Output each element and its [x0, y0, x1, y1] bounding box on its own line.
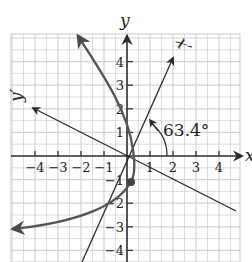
- y-axis-label: y: [119, 10, 130, 30]
- x-tick-label: −3: [48, 160, 67, 175]
- y-tick-label: −3: [105, 220, 124, 235]
- y-tick-label: 1: [116, 125, 124, 140]
- vertex-point: [127, 178, 135, 186]
- x-tick-label: −2: [71, 160, 90, 175]
- x-tick-label: 2: [169, 160, 177, 175]
- y-prime-axis-label: y′: [6, 88, 26, 103]
- rotated-axes-diagram: −4−3−2−112344321−1−2−3−4 y x x′ y′ 63.4°: [0, 0, 252, 262]
- y-tick-label: 4: [116, 55, 124, 70]
- rotation-angle-label: 63.4°: [163, 120, 209, 140]
- x-prime-axis-label: x′: [172, 34, 196, 55]
- x-tick-label: 3: [192, 160, 200, 175]
- x-tick-label: −4: [25, 160, 44, 175]
- x-tick-label: 4: [215, 160, 223, 175]
- diagram-canvas: −4−3−2−112344321−1−2−3−4 y x x′ y′ 63.4°: [0, 0, 252, 262]
- angle-arc-arrow: [150, 120, 158, 131]
- x-axis-label: x: [245, 145, 252, 165]
- y-tick-label: 3: [116, 78, 124, 93]
- grid: [11, 34, 240, 262]
- y-tick-label: −4: [105, 243, 124, 258]
